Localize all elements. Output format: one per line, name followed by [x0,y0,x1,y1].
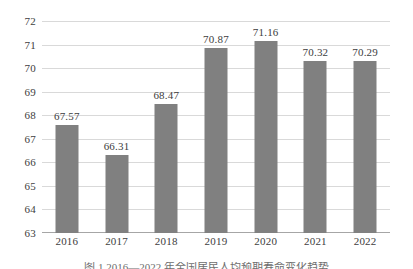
bar [304,61,327,233]
bar-value-label: 71.16 [253,27,279,38]
x-axis-tick-label: 2022 [340,236,390,247]
bar-slot: 70.32 [291,21,341,233]
y-axis-tick-label: 65 [12,180,36,191]
y-axis-tick-label: 67 [12,133,36,144]
bar [105,155,128,233]
bar-slot: 70.29 [340,21,390,233]
y-axis-tick-label: 69 [12,86,36,97]
bar-value-label: 70.32 [303,47,329,58]
bar-value-label: 70.87 [203,34,229,45]
bar-value-label: 70.29 [352,47,378,58]
y-axis-tick-label: 68 [12,110,36,121]
bar-slot: 71.16 [241,21,291,233]
figure-caption: 图 1 2016—2022 年全国居民人均预期寿命变化趋势 [0,262,413,269]
x-axis-tick-label: 2018 [141,236,191,247]
y-axis-tick-label: 64 [12,204,36,215]
bar [204,48,227,233]
bar-value-label: 66.31 [104,141,130,152]
y-axis-tick-label: 66 [12,157,36,168]
x-axis-tick-label: 2021 [291,236,341,247]
y-axis-tick-label: 72 [12,16,36,27]
y-axis-tick-label: 70 [12,63,36,74]
y-axis-tick-label: 71 [12,39,36,50]
bar [254,41,277,233]
x-axis-tick-label: 2019 [191,236,241,247]
bar-slot: 70.87 [191,21,241,233]
plot-area: 67.5766.3168.4770.8771.1670.3270.29 [42,21,390,233]
x-axis-tick-label: 2017 [92,236,142,247]
x-axis-tick-label: 2020 [241,236,291,247]
bar [155,104,178,233]
bar [354,61,377,233]
bar [55,125,78,233]
bar-slot: 68.47 [141,21,191,233]
bar-slot: 67.57 [42,21,92,233]
bar-slot: 66.31 [92,21,142,233]
bar-chart: 72717069686766656463 67.5766.3168.4770.8… [0,0,413,269]
bar-value-label: 68.47 [153,90,179,101]
bar-value-label: 67.57 [54,111,80,122]
y-axis-tick-label: 63 [12,228,36,239]
x-axis-tick-label: 2016 [42,236,92,247]
